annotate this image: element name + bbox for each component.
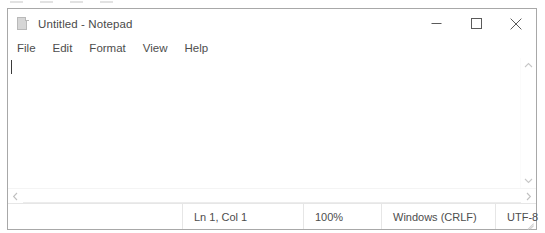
chevron-right-icon[interactable]	[521, 189, 536, 203]
status-zoom-level[interactable]: 100%	[303, 204, 381, 229]
notepad-window: Untitled - Notepad File Edit	[7, 8, 537, 230]
minimize-button[interactable]	[416, 9, 456, 38]
menu-item-edit[interactable]: Edit	[53, 42, 73, 54]
vertical-scrollbar[interactable]	[520, 58, 536, 188]
chevron-down-icon[interactable]	[521, 173, 536, 188]
menu-bar: File Edit Format View Help	[8, 38, 536, 58]
status-cursor-position: Ln 1, Col 1	[182, 204, 303, 229]
menu-item-format[interactable]: Format	[89, 42, 125, 54]
status-line-ending: Windows (CRLF)	[381, 204, 495, 229]
horizontal-scrollbar[interactable]	[8, 188, 536, 203]
chevron-left-icon[interactable]	[8, 189, 23, 203]
text-editor-area[interactable]	[8, 58, 520, 188]
status-bar-spacer	[8, 204, 182, 229]
window-title: Untitled - Notepad	[38, 18, 133, 30]
window-controls	[416, 9, 536, 38]
notepad-document-icon	[15, 16, 31, 32]
status-bar: Ln 1, Col 1 100% Windows (CRLF) UTF-8	[8, 203, 536, 229]
menu-item-view[interactable]: View	[143, 42, 168, 54]
menu-item-file[interactable]: File	[17, 42, 36, 54]
resize-grip-icon[interactable]	[523, 216, 534, 227]
menu-item-help[interactable]: Help	[185, 42, 209, 54]
scan-artifact-marks	[8, 1, 128, 4]
title-bar[interactable]: Untitled - Notepad	[8, 9, 536, 38]
maximize-button[interactable]	[456, 9, 496, 38]
chevron-up-icon[interactable]	[521, 58, 536, 73]
text-caret	[11, 60, 12, 74]
close-button[interactable]	[496, 9, 536, 38]
editor-region	[8, 58, 536, 203]
